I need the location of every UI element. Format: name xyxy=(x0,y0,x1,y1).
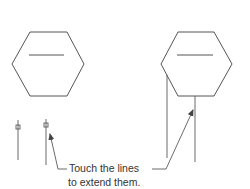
left-hexagon xyxy=(12,32,84,96)
right-hexagon-group xyxy=(161,32,232,96)
left-arrow xyxy=(50,134,67,169)
left-hexagon-group xyxy=(12,32,84,96)
callout-line-2: to extend them. xyxy=(68,176,140,189)
diagram-canvas xyxy=(0,0,250,189)
right-arrow xyxy=(152,110,193,169)
left-short-lines xyxy=(16,119,48,165)
callout-line-1: Touch the lines xyxy=(69,162,139,175)
right-extended-lines xyxy=(167,75,195,162)
right-hexagon xyxy=(161,32,232,96)
